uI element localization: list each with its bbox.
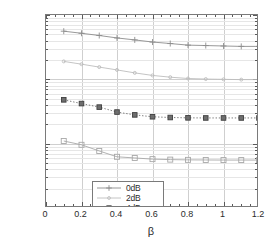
marker-plus	[167, 41, 173, 47]
marker-plus	[256, 43, 258, 49]
marker-filled-square	[107, 206, 111, 207]
legend-marker-dot-icon	[96, 193, 122, 203]
marker-filled-square	[61, 98, 66, 103]
legend-label: 4dB	[126, 203, 141, 207]
x-tick-label: 0	[42, 209, 47, 219]
marker-plus	[132, 37, 138, 43]
marker-plus	[106, 185, 112, 191]
marker-open-square	[257, 158, 259, 163]
marker-filled-square	[97, 105, 102, 110]
marker-filled-square	[257, 116, 258, 121]
marker-filled-square	[186, 116, 191, 121]
legend-item-2[interactable]: 4dB	[93, 203, 163, 207]
series-line-0dB	[64, 31, 258, 46]
marker-plus	[203, 43, 209, 49]
legend-label: 0dB	[126, 183, 141, 193]
x-tick-label: 1.2	[252, 209, 265, 219]
x-tick-label: 0.4	[110, 209, 123, 219]
marker-filled-square	[115, 110, 120, 115]
legend-marker-plus-icon	[96, 183, 122, 193]
x-axis-label: β	[148, 225, 154, 237]
figure: Bit Error Rate 10-210-310-410-5 00.20.40…	[0, 0, 272, 250]
marker-filled-square	[239, 116, 244, 121]
legend-item-0[interactable]: 0dB	[93, 183, 163, 193]
series-line-2dB	[64, 61, 258, 79]
marker-dot	[258, 78, 259, 81]
series-line-6dB	[64, 141, 258, 160]
marker-filled-square	[203, 116, 208, 121]
marker-plus	[150, 39, 156, 45]
marker-plus	[238, 43, 244, 49]
marker-filled-square	[168, 115, 173, 120]
legend[interactable]: 0dB 2dB 4dB 6dB	[92, 181, 164, 207]
legend-marker-filled-square-icon	[96, 203, 122, 207]
series-line-4dB	[64, 100, 258, 118]
marker-filled-square	[132, 113, 137, 118]
marker-plus	[96, 33, 102, 39]
x-tick-label: 1	[220, 209, 225, 219]
marker-filled-square	[150, 114, 155, 119]
y-axis-label-wrapper: Bit Error Rate	[14, 0, 15, 250]
x-tick-label: 0.8	[181, 209, 194, 219]
marker-plus	[61, 28, 67, 34]
marker-plus	[221, 43, 227, 49]
plot-area: 0dB 2dB 4dB 6dB	[45, 14, 258, 207]
x-tick-label: 0.6	[145, 209, 158, 219]
marker-plus	[185, 42, 191, 48]
marker-filled-square	[221, 116, 226, 121]
legend-item-1[interactable]: 2dB	[93, 193, 163, 203]
data-series-layer	[46, 15, 258, 207]
marker-plus	[79, 30, 85, 36]
marker-plus	[114, 35, 120, 41]
legend-label: 2dB	[126, 193, 141, 203]
x-tick-label: 0.2	[74, 209, 87, 219]
marker-filled-square	[79, 101, 84, 106]
